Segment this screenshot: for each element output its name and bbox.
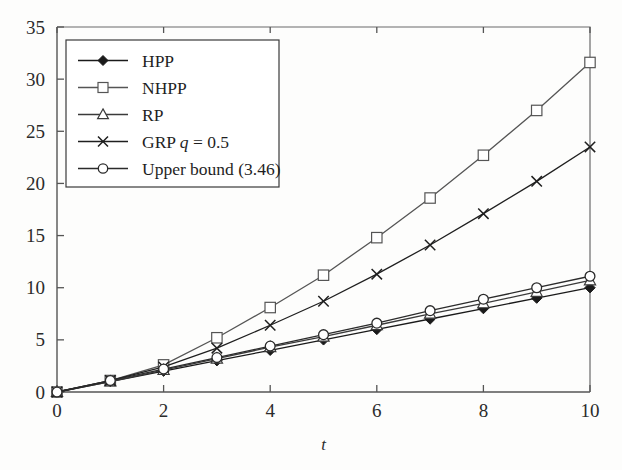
marker-open-circle	[585, 271, 595, 281]
marker-open-circle	[372, 318, 382, 328]
line-chart-svg: 05101520253035 0246810 HPPNHPPRPGRP q = …	[0, 0, 622, 470]
marker-open-square	[585, 57, 595, 67]
marker-open-circle	[98, 164, 107, 173]
chart-figure: 05101520253035 0246810 HPPNHPPRPGRP q = …	[0, 0, 622, 470]
marker-open-circle	[159, 364, 169, 374]
legend-label: Upper bound (3.46)	[142, 159, 281, 179]
x-tick-label: 8	[479, 400, 489, 421]
legend-label: RP	[142, 105, 164, 125]
marker-x-cross	[478, 208, 488, 218]
y-tick-label: 0	[36, 382, 46, 403]
marker-open-circle	[105, 376, 115, 386]
x-tick-label: 4	[265, 400, 275, 421]
marker-open-circle	[319, 330, 329, 340]
marker-x-cross	[318, 296, 328, 306]
y-tick-label: 15	[26, 225, 45, 246]
x-tick-label: 6	[372, 400, 382, 421]
marker-open-circle	[479, 294, 489, 304]
x-axis-title: t	[321, 435, 327, 454]
legend-label: NHPP	[142, 78, 187, 98]
x-tick-label: 10	[581, 400, 600, 421]
marker-open-square	[212, 333, 222, 343]
marker-open-circle	[425, 306, 435, 316]
marker-x-cross	[372, 269, 382, 279]
x-axis-tick-labels: 0246810	[52, 400, 599, 421]
x-tick-label: 0	[52, 400, 62, 421]
legend-label: GRP q = 0.5	[142, 132, 229, 152]
marker-open-square	[532, 105, 542, 115]
y-tick-label: 20	[26, 173, 45, 194]
y-tick-label: 5	[36, 329, 46, 350]
marker-x-cross	[425, 240, 435, 250]
marker-x-cross	[532, 176, 542, 186]
marker-open-circle	[265, 341, 275, 351]
marker-open-square	[318, 270, 328, 280]
y-tick-label: 10	[26, 277, 45, 298]
marker-open-square	[265, 302, 275, 312]
y-tick-label: 35	[26, 17, 45, 38]
y-axis-tick-labels: 05101520253035	[26, 17, 45, 403]
marker-open-circle	[212, 353, 222, 363]
marker-open-square	[372, 232, 382, 242]
y-tick-label: 25	[26, 121, 45, 142]
x-tick-label: 2	[159, 400, 169, 421]
y-tick-label: 30	[26, 69, 45, 90]
marker-open-circle	[52, 387, 62, 397]
marker-x-cross	[265, 320, 275, 330]
series-4	[52, 271, 595, 397]
marker-open-square	[478, 150, 488, 160]
marker-open-circle	[532, 283, 542, 293]
marker-open-square	[425, 193, 435, 203]
legend-label: HPP	[142, 51, 174, 71]
chart-legend: HPPNHPPRPGRP q = 0.5Upper bound (3.46)	[66, 40, 281, 187]
marker-open-square	[98, 83, 108, 93]
